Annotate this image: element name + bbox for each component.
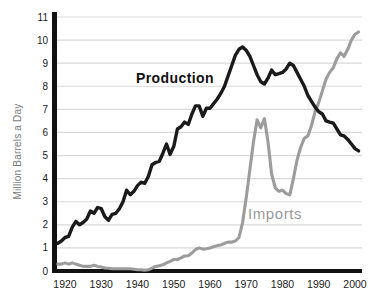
x-tick-label: 1950 — [162, 278, 186, 290]
y-tick-label: 3 — [42, 196, 48, 207]
x-tick-label: 1980 — [271, 278, 295, 290]
imports-line — [58, 32, 359, 270]
x-tick-label: 1920 — [53, 278, 77, 290]
y-tick-label: 11 — [38, 12, 49, 23]
plot-area: 0123456789101119201930194019501960197019… — [0, 0, 385, 308]
y-axis-title: Million Barrels a Day — [12, 104, 23, 200]
y-tick-label: 7 — [42, 104, 48, 115]
y-tick-label: 5 — [42, 150, 48, 161]
y-tick-label: 2 — [42, 219, 48, 230]
y-tick-label: 10 — [37, 35, 49, 46]
y-tick-label: 1 — [42, 242, 48, 253]
x-axis-line — [52, 269, 362, 273]
x-tick-label: 1970 — [235, 278, 259, 290]
y-axis-line — [52, 12, 57, 273]
x-tick-label: 1960 — [198, 278, 222, 290]
y-tick-label: 9 — [42, 58, 48, 69]
y-tick-label: 4 — [42, 173, 48, 184]
y-tick-label: 8 — [42, 81, 48, 92]
x-tick-label: 1940 — [126, 278, 150, 290]
series-label-imports: Imports — [248, 205, 302, 222]
y-tick-label: 6 — [42, 127, 48, 138]
y-tick-label: 0 — [42, 266, 48, 277]
x-tick-label: 1990 — [307, 278, 331, 290]
x-tick-label: 2000 — [343, 278, 367, 290]
x-tick-label: 1930 — [90, 278, 114, 290]
oil-production-imports-chart: 0123456789101119201930194019501960197019… — [0, 0, 385, 308]
series-label-production: Production — [136, 70, 214, 86]
